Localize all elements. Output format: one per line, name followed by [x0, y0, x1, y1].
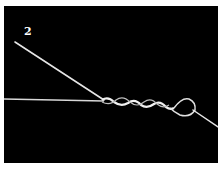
tag-end-line [15, 42, 104, 100]
main-line [4, 99, 104, 101]
knot-loop [170, 99, 195, 116]
knot-photo: 2 [4, 6, 218, 163]
standing-line [193, 110, 218, 127]
knot-illustration [4, 6, 218, 163]
step-number-label: 2 [24, 26, 32, 37]
